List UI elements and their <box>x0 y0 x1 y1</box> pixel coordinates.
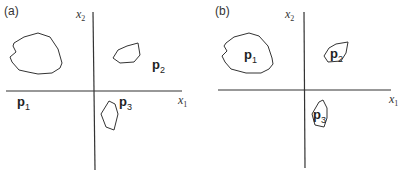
region-p2-outline <box>113 43 140 63</box>
x1-axis-label: x1 <box>389 93 398 108</box>
region-p2-label: p2 <box>330 47 343 64</box>
region-p2-label: p2 <box>152 58 165 75</box>
region-p3-outline <box>101 101 118 130</box>
region-p1-outline <box>10 33 62 74</box>
region-p3-label: p3 <box>313 108 326 125</box>
region-p3-label: p3 <box>119 95 132 112</box>
panel-label: (a) <box>4 5 19 17</box>
region-p1-label: p1 <box>244 48 257 65</box>
x2-axis-label: x2 <box>285 8 294 23</box>
panel-b: (b) x2 x1 p1 p2 p3 <box>201 0 402 175</box>
panel-a-diagram <box>0 0 201 175</box>
panel-label: (b) <box>215 5 230 17</box>
panel-b-diagram <box>201 0 402 175</box>
region-p1-label: p1 <box>17 95 30 112</box>
x2-axis <box>304 12 305 168</box>
panel-a: (a) x2 x1 p1 p2 p3 <box>0 0 201 175</box>
x2-axis-label: x2 <box>76 8 85 23</box>
x1-axis-label: x1 <box>178 94 187 109</box>
